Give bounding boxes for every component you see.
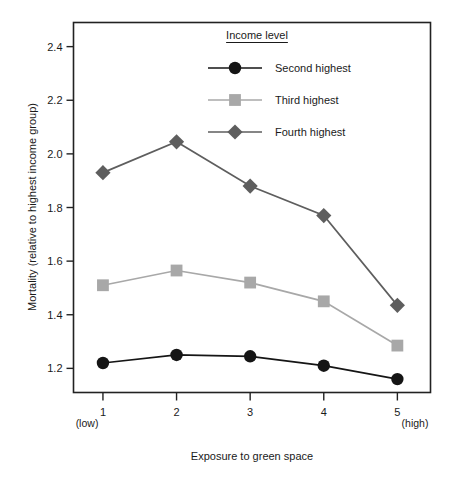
legend-title: Income level [226,29,288,41]
circle-marker [318,359,330,371]
y-tick-label: 2.4 [47,41,62,53]
square-marker [229,94,241,106]
circle-marker [170,349,182,361]
y-tick-label: 1.4 [47,309,62,321]
x-tick-label: 4 [321,406,327,418]
x-axis-high-annotation: (high) [402,417,429,429]
x-tick-label: 2 [173,406,179,418]
y-tick-label: 2.0 [47,148,62,160]
circle-marker [97,357,109,369]
square-marker [318,295,330,307]
y-tick-label: 1.8 [47,202,62,214]
legend-item-label: Third highest [275,94,339,106]
x-axis-low-annotation: (low) [76,417,99,429]
circle-marker [229,62,241,74]
y-tick-label: 2.2 [47,94,62,106]
chart-figure: 1.21.41.61.82.02.22.4 12345 Mortality (r… [0,0,451,481]
y-tick-label: 1.6 [47,255,62,267]
x-tick-label: 1 [100,406,106,418]
square-marker [244,277,256,289]
square-marker [97,279,109,291]
circle-marker [244,350,256,362]
y-tick-label: 1.2 [47,362,62,374]
circle-marker [391,373,403,385]
square-marker [391,340,403,352]
x-tick-label: 5 [394,406,400,418]
legend-item-label: Fourth highest [275,126,345,138]
square-marker [171,265,183,277]
y-axis-title: Mortality (relative to highest income gr… [26,103,38,311]
x-tick-label: 3 [247,406,253,418]
chart-background [0,0,451,481]
x-axis-title: Exposure to green space [191,450,313,462]
mortality-green-space-line-chart: 1.21.41.61.82.02.22.4 12345 Mortality (r… [0,0,451,481]
legend-item-label: Second highest [275,62,351,74]
